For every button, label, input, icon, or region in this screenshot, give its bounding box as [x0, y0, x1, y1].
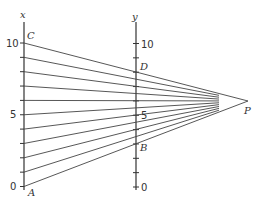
fan-line [24, 86, 219, 99]
y-tick-label-5: 5 [141, 110, 147, 121]
fan-line [24, 108, 219, 157]
x-axis-label: x [20, 9, 26, 20]
x-tick-label-0: 0 [10, 181, 16, 192]
fan-line [24, 110, 219, 172]
x-tick-label-5: 5 [10, 109, 16, 120]
y-tick-label-0: 0 [141, 182, 147, 193]
x-tick-label-10: 10 [6, 38, 19, 49]
fan-line [24, 103, 219, 115]
point-label-P: P [243, 105, 251, 116]
y-axis-label: y [131, 11, 138, 22]
point-label-A: A [27, 187, 35, 198]
nomogram-diagram: x y 10 5 0 10 5 0 C A D B P [0, 0, 262, 205]
x-axis [20, 22, 24, 190]
point-label-C: C [27, 30, 35, 41]
fan-line [24, 72, 219, 98]
fan-line [24, 57, 219, 95]
y-tick-label-10: 10 [141, 39, 154, 50]
fan-line [24, 100, 219, 101]
fan-line [24, 106, 219, 143]
point-label-D: D [139, 61, 148, 72]
point-label-B: B [139, 142, 147, 153]
y-axis [133, 22, 139, 190]
